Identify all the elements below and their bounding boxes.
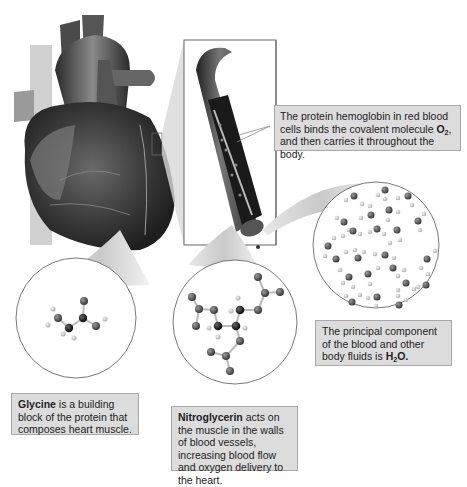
formula-symbol: O. [397, 350, 408, 362]
formula-h2o: H2O. [386, 350, 409, 362]
callout-water: The principal component of the blood and… [315, 320, 452, 366]
callout-hemoglobin: The protein hemoglobin in red blood cell… [274, 105, 461, 151]
nitroglycerin-molecule [173, 260, 297, 384]
callout-glycine: Glycine is a building block of the prote… [11, 393, 139, 435]
formula-o2: O2 [436, 123, 448, 135]
term-glycine: Glycine [18, 398, 56, 410]
glycine-molecule [16, 258, 136, 378]
heart-illustration [14, 15, 175, 250]
water-molecules [313, 182, 439, 309]
callout-text: The principal component of the blood and… [322, 325, 437, 362]
blood-vessel-cutaway [184, 40, 276, 249]
term-nitroglycerin: Nitroglycerin [178, 411, 243, 423]
callout-text: The protein hemoglobin in red blood cell… [280, 110, 448, 135]
callout-nitroglycerin: Nitroglycerin acts on the muscle in the … [171, 406, 298, 471]
formula-symbol: O [436, 123, 444, 135]
